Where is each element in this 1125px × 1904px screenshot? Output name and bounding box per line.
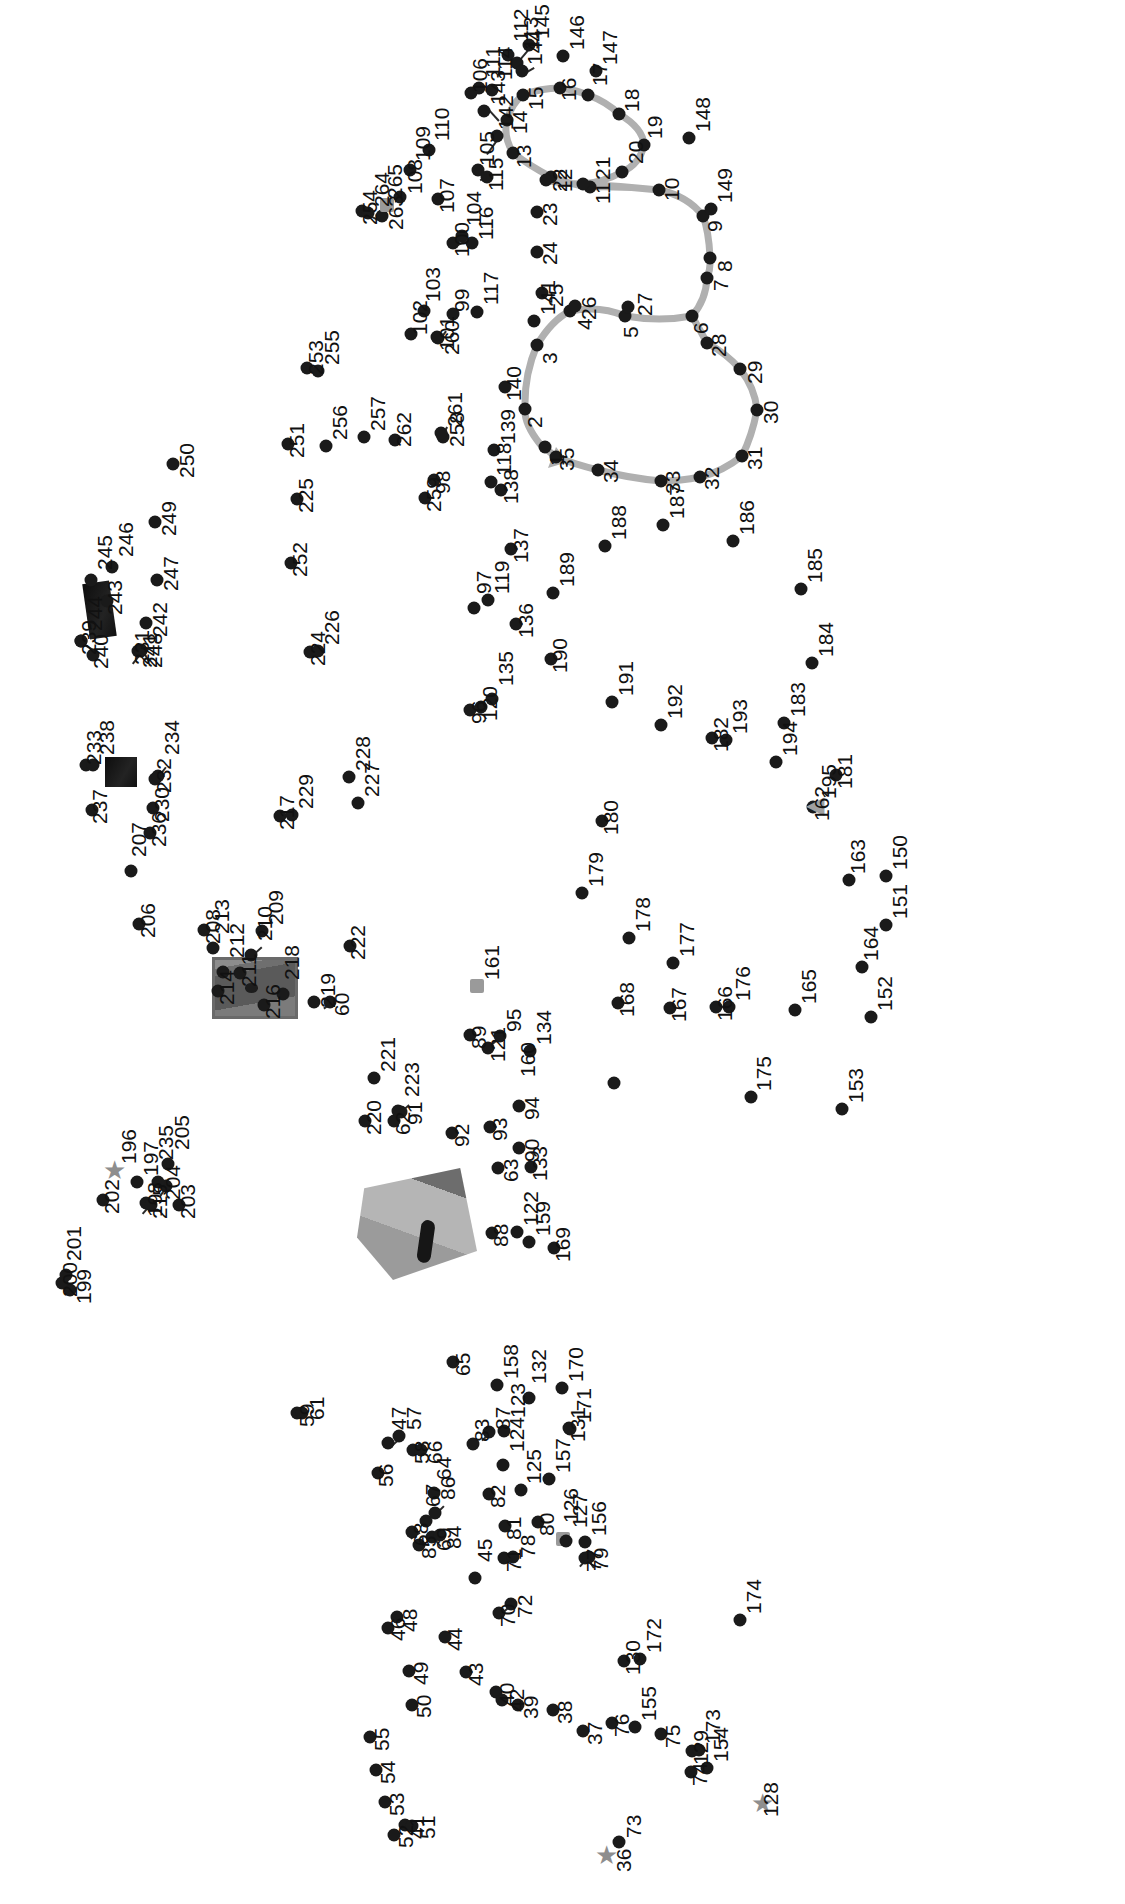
keypoint-label-221: 221	[377, 1037, 398, 1072]
keypoint-label-195: 195	[818, 764, 839, 799]
keypoint-label-172: 172	[643, 1618, 664, 1653]
keypoint-170[interactable]	[556, 1382, 569, 1395]
keypoint-6[interactable]	[686, 310, 699, 323]
keypoint-label-232: 232	[153, 758, 174, 793]
keypoint-label-213: 213	[211, 899, 232, 934]
keypoint-156[interactable]	[579, 1536, 592, 1549]
keypoint-178[interactable]	[623, 932, 636, 945]
keypoint-label-240: 240	[90, 634, 111, 669]
keypoint-57[interactable]	[393, 1430, 406, 1443]
keypoint-125[interactable]	[515, 1484, 528, 1497]
keypoint-175[interactable]	[745, 1091, 758, 1104]
keypoint-20[interactable]	[616, 166, 629, 179]
keypoint-174[interactable]	[734, 1614, 747, 1627]
keypoint-label-170: 170	[565, 1347, 586, 1382]
keypoint-158[interactable]	[491, 1379, 504, 1392]
keypoint-label-107: 107	[436, 178, 457, 213]
keypoint-189[interactable]	[547, 587, 560, 600]
dark-rect-233	[105, 757, 137, 787]
keypoint-label-17: 17	[589, 63, 610, 86]
keypoint-228[interactable]	[343, 771, 356, 784]
keypoint-192[interactable]	[655, 719, 668, 732]
keypoint-3[interactable]	[531, 339, 544, 352]
keypoint-245[interactable]	[85, 574, 98, 587]
keypoint-256[interactable]	[320, 440, 333, 453]
keypoint-161[interactable]	[470, 979, 484, 993]
keypoint-144[interactable]	[516, 65, 529, 78]
keypoint-label-161: 161	[481, 945, 502, 980]
keypoint-159[interactable]	[523, 1236, 536, 1249]
keypoint-197[interactable]	[131, 1176, 144, 1189]
keypoint-184[interactable]	[806, 657, 819, 670]
keypoint-label-155: 155	[638, 1686, 659, 1721]
keypoint-label-184: 184	[815, 622, 836, 657]
keypoint-186[interactable]	[727, 535, 740, 548]
keypoint-150[interactable]	[880, 870, 893, 883]
keypoint-207[interactable]	[125, 865, 138, 878]
keypoint-149[interactable]	[705, 203, 718, 216]
keypoint-257[interactable]	[358, 431, 371, 444]
keypoint-152[interactable]	[865, 1011, 878, 1024]
keypoint-label-65: 65	[452, 1353, 473, 1376]
keypoint-label-250: 250	[176, 443, 197, 478]
keypoint-label-19: 19	[644, 116, 665, 139]
keypoint-label-193: 193	[729, 699, 750, 734]
keypoint-label-169: 169	[552, 1227, 573, 1262]
keypoint-188[interactable]	[599, 540, 612, 553]
keypoint-label-103: 103	[422, 267, 443, 302]
keypoint-label-56: 56	[375, 1464, 396, 1487]
keypoint-97[interactable]	[468, 602, 481, 615]
keypoint-label-187: 187	[666, 484, 687, 519]
keypoint-45[interactable]	[469, 1572, 482, 1585]
keypoint-153[interactable]	[836, 1103, 849, 1116]
keypoint-label-34: 34	[600, 460, 621, 483]
keypoint-163[interactable]	[843, 874, 856, 887]
keypoint-191[interactable]	[606, 696, 619, 709]
keypoint-124[interactable]	[497, 1459, 510, 1472]
keypoint-177[interactable]	[667, 957, 680, 970]
keypoint-label-176: 176	[732, 966, 753, 1001]
keypoint-label-222: 222	[347, 925, 368, 960]
keypoint-label-16: 16	[558, 78, 579, 101]
keypoint-label-130: 130	[622, 1640, 643, 1675]
keypoint-label-143: 143	[487, 70, 508, 105]
keypoint-label-27: 27	[634, 293, 655, 316]
keypoint-label-148: 148	[692, 97, 713, 132]
keypoint-label-219: 219	[317, 973, 338, 1008]
keypoint-160[interactable]	[608, 1077, 621, 1090]
keypoint-label-140: 140	[503, 366, 524, 401]
keypoint-2[interactable]	[519, 403, 532, 416]
keypoint-86[interactable]	[429, 1507, 442, 1520]
keypoint-17[interactable]	[582, 89, 595, 102]
keypoint-label-146: 146	[566, 15, 587, 50]
keypoint-label-135: 135	[495, 651, 516, 686]
keypoint-label-61: 61	[306, 1397, 327, 1420]
keypoint-148[interactable]	[683, 132, 696, 145]
keypoint-221[interactable]	[368, 1072, 381, 1085]
keypoint-label-119: 119	[491, 561, 512, 594]
keypoint-label-259: 259	[423, 477, 444, 512]
keypoint-label-115: 115	[485, 158, 506, 191]
keypoint-label-42: 42	[506, 1689, 527, 1712]
keypoint-143[interactable]	[478, 105, 491, 118]
keypoint-label-257: 257	[367, 396, 388, 431]
keypoint-141[interactable]	[528, 315, 541, 328]
keypoint-165[interactable]	[789, 1004, 802, 1017]
keypoint-label-22: 22	[549, 169, 570, 192]
keypoint-1[interactable]	[539, 441, 552, 454]
keypoint-164[interactable]	[856, 961, 869, 974]
keypoint-227[interactable]	[352, 797, 365, 810]
keypoint-label-81: 81	[503, 1517, 524, 1540]
keypoint-119[interactable]	[482, 594, 495, 607]
keypoint-185[interactable]	[795, 583, 808, 596]
keypoint-127[interactable]	[560, 1535, 573, 1548]
keypoint-21[interactable]	[577, 178, 590, 191]
keypoint-label-5: 5	[620, 326, 641, 338]
keypoint-179[interactable]	[576, 887, 589, 900]
keypoint-194[interactable]	[770, 756, 783, 769]
keypoint-187[interactable]	[657, 519, 670, 532]
keypoint-label-2: 2	[524, 416, 545, 428]
keypoint-122[interactable]	[511, 1226, 524, 1239]
keypoint-146[interactable]	[557, 50, 570, 63]
keypoint-label-151: 151	[889, 884, 910, 919]
